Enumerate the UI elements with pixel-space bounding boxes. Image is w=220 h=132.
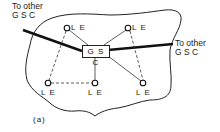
le-label-top-right: L E bbox=[132, 24, 147, 32]
le-node-top-left-icon bbox=[64, 25, 70, 31]
le-node-bottom-left-icon bbox=[45, 80, 51, 86]
le-node-top-right-icon bbox=[125, 25, 131, 31]
le-node-bottom-right-icon bbox=[140, 80, 146, 86]
edge-le-bottom-right-gsc bbox=[108, 56, 141, 81]
le-label-bottom-middle: L E bbox=[88, 89, 103, 97]
edge-dashed-top-left-bottom-left bbox=[49, 31, 66, 80]
external-link-right-line bbox=[108, 44, 173, 50]
le-node-bottom-middle-icon bbox=[92, 80, 98, 86]
external-label-left: To other G S C bbox=[12, 2, 43, 20]
le-label-bottom-left: L E bbox=[41, 89, 56, 97]
edge-le-top-right-gsc bbox=[104, 30, 126, 45]
edge-le-top-left-gsc bbox=[69, 30, 88, 45]
region-boundary bbox=[26, 10, 181, 116]
edge-dashed-top-right-bottom-right bbox=[130, 31, 143, 80]
figure-caption: (a) bbox=[33, 115, 46, 124]
le-label-top-left: L E bbox=[71, 24, 86, 32]
le-label-bottom-right: L E bbox=[136, 89, 151, 97]
gsc-hub: G S C bbox=[82, 45, 110, 58]
external-label-right: To other G S C bbox=[175, 39, 206, 57]
